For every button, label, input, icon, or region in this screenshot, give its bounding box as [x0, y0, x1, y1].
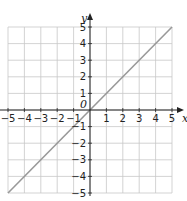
x-tick-label: 1 [103, 113, 109, 124]
y-tick-label: 4 [80, 38, 86, 49]
y-tick-label: −3 [71, 154, 86, 165]
x-tick-label: −3 [33, 113, 48, 124]
x-tick-label: 5 [169, 113, 175, 124]
y-tick-label: −1 [71, 121, 86, 132]
x-tick-label: −4 [17, 113, 32, 124]
coordinate-grid: −5−4−3−2−11234554321−1−2−3−4−50xy [0, 0, 187, 201]
x-axis-label: x [182, 112, 187, 125]
y-axis-label: y [80, 12, 88, 25]
x-tick-label: −5 [1, 113, 16, 124]
y-tick-label: −4 [71, 171, 86, 182]
y-tick-label: −5 [71, 188, 86, 199]
y-tick-label: 2 [80, 71, 86, 82]
x-tick-label: 4 [152, 113, 158, 124]
x-tick-label: 2 [120, 113, 126, 124]
x-tick-label: −2 [50, 113, 65, 124]
x-tick-label: 3 [136, 113, 142, 124]
origin-label: 0 [80, 98, 87, 111]
y-tick-label: 3 [80, 55, 86, 66]
y-axis-arrow-icon [87, 13, 93, 20]
y-tick-label: −2 [71, 138, 86, 149]
